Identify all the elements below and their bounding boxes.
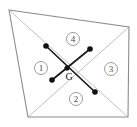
sector-label-2: 2	[74, 94, 79, 104]
sector-label-3: 3	[109, 64, 114, 74]
node-lower-right	[92, 89, 98, 95]
figure-canvas: G 1 2 3 4	[0, 0, 137, 127]
sector-label-4: 4	[71, 34, 76, 44]
centroid-label: G	[65, 71, 72, 82]
node-upper-right	[87, 46, 93, 52]
node-upper-left	[43, 43, 49, 49]
geometry-figure: G 1 2 3 4	[0, 0, 137, 127]
node-lower-left	[49, 77, 55, 83]
connector-upper-left-to-lower-right	[46, 46, 95, 92]
sector-label-1: 1	[39, 63, 44, 73]
